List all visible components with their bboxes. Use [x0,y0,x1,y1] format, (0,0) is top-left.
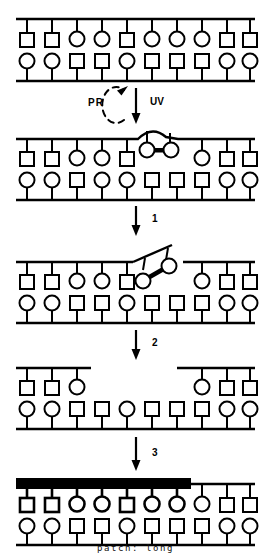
base-4 [95,19,110,47]
base-6 [145,489,160,512]
bottom-strand-bases [20,519,258,546]
top-strand-left-bases [20,368,85,395]
base-7 [170,19,185,47]
base-10 [243,402,258,430]
figure-caption: patch: long [0,543,271,553]
base-10 [243,139,257,166]
base-10 [243,173,258,201]
base-9 [220,139,234,166]
base-10 [243,262,257,289]
base-2 [45,19,59,47]
base-5 [120,54,135,82]
base-9 [220,173,235,201]
base-1 [20,368,34,395]
base-3 [70,19,85,47]
base-9 [220,296,235,324]
base-7 [170,402,184,429]
base-3 [70,262,85,289]
base-1 [20,54,35,82]
base-2 [45,173,60,201]
dimer-pair-on-flap [136,248,177,289]
base-4 [95,54,109,81]
base-8 [195,402,209,429]
base-3 [70,402,84,429]
base-9 [220,368,234,395]
base-10 [243,54,258,82]
bottom-strand-bases [20,173,258,201]
dimer-pair [140,131,179,158]
base-10 [243,19,257,47]
base-7 [170,519,184,545]
base-6 [145,173,159,200]
pr-arrow [102,86,128,123]
base-4 [95,402,109,429]
bottom-strand-bases [20,402,258,430]
base-6 [145,296,159,323]
panel-dimer [16,131,258,200]
step-2-label: 2 [152,337,158,348]
base-9 [220,402,235,430]
base-8 [195,368,210,395]
base-2 [45,54,60,82]
base-10 [243,368,257,395]
base-1 [20,139,34,166]
base-2 [45,402,60,430]
base-7 [170,296,184,323]
panel-incision [16,245,258,323]
top-backbone-bulged [16,131,255,139]
base-4 [95,139,110,166]
base-8 [195,173,209,200]
base-2 [45,368,59,395]
base-1 [20,402,35,430]
top-strand-right-bases [195,368,258,395]
base-4 [95,262,110,289]
base-1 [20,296,35,324]
bottom-strand-bases [20,296,258,324]
base-3 [70,173,84,200]
base-5 [120,173,135,201]
base-9 [220,54,235,82]
base-8 [195,262,210,289]
base-10 [243,519,258,546]
uv-label: UV [150,96,164,107]
base-1 [20,173,35,201]
base-2 [45,489,59,512]
step-1-arrow [132,206,141,236]
base-2 [45,139,59,166]
base-8 [195,19,210,47]
base-5 [120,519,135,546]
base-8 [195,54,209,81]
base-4 [95,489,110,512]
base-6 [145,19,160,47]
base-1 [20,519,35,546]
uv-arrow [132,88,141,124]
panel-excision [16,368,258,429]
base-9 [220,484,234,512]
step-3-arrow [132,437,141,471]
base-3 [70,139,85,166]
top-strand-bases [20,248,257,289]
long-repair-patch [16,478,191,489]
base-8 [195,519,209,545]
base-9 [220,19,234,47]
base-7 [170,54,184,81]
base-5 [120,402,135,430]
base-8 [195,139,210,166]
base-2 [45,262,59,289]
base-5 [120,19,134,47]
base-1 [20,489,34,512]
base-3 [70,368,85,395]
base-7 [170,489,185,512]
step-3-label: 3 [152,447,158,458]
base-1 [20,262,34,289]
base-3 [70,519,84,545]
base-10 [243,296,258,324]
base-6 [145,402,159,429]
base-2 [45,296,60,324]
base-3 [70,489,85,512]
base-5 [120,489,134,512]
base-9 [220,519,235,546]
base-3 [70,54,84,81]
base-4 [95,173,110,201]
base-5 [120,139,134,166]
